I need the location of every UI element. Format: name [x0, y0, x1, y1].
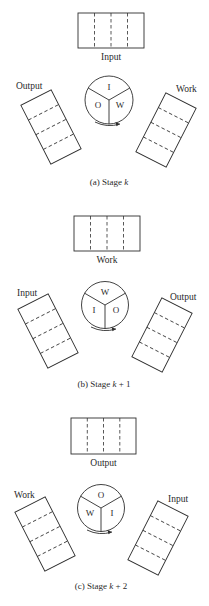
stage-c: Output Work Input O W I (c)	[14, 418, 188, 591]
buffer-rotation-diagram: Input Output Work I O W (a)	[0, 0, 209, 606]
right-buffer	[128, 501, 188, 575]
left-buffer	[15, 497, 75, 571]
right-buffer	[132, 298, 192, 372]
stage-caption: (b) Stage k + 1	[77, 379, 130, 389]
wheel-top-segment: O	[98, 490, 105, 500]
stage-b: Work Input Output W I O (b)	[17, 216, 197, 389]
rotation-wheel: O W I	[78, 485, 125, 532]
right-buffer-label: Input	[168, 494, 188, 504]
left-buffer	[18, 294, 78, 368]
wheel-right-segment: I	[111, 508, 114, 518]
wheel-left-segment: I	[93, 305, 96, 315]
top-buffer-label: Work	[97, 255, 118, 265]
wheel-left-segment: O	[95, 100, 102, 110]
rotation-arrow-icon	[91, 327, 116, 331]
wheel-right-segment: O	[113, 305, 120, 315]
top-buffer	[78, 13, 144, 48]
stage-a: Input Output Work I O W (a)	[16, 13, 197, 187]
stage-caption: (a) Stage k	[90, 177, 129, 187]
wheel-top-segment: I	[108, 82, 111, 92]
wheel-top-segment: W	[101, 287, 110, 297]
rotation-wheel: I O W	[85, 76, 133, 124]
wheel-left-segment: W	[86, 508, 95, 518]
right-buffer	[136, 93, 196, 167]
stage-caption: (c) Stage k + 2	[75, 581, 128, 591]
left-buffer-label: Work	[14, 490, 35, 500]
left-buffer-label: Output	[16, 81, 43, 91]
top-buffer	[71, 418, 136, 454]
rotation-arrow-icon	[87, 530, 112, 534]
left-buffer	[21, 90, 81, 164]
wheel-right-segment: W	[116, 100, 125, 110]
top-buffer	[74, 216, 140, 251]
rotation-wheel: W I O	[82, 282, 129, 329]
top-buffer-label: Input	[101, 52, 121, 62]
right-buffer-label: Work	[176, 84, 197, 94]
top-buffer-label: Output	[90, 458, 117, 468]
left-buffer-label: Input	[17, 288, 37, 298]
right-buffer-label: Output	[170, 292, 197, 302]
